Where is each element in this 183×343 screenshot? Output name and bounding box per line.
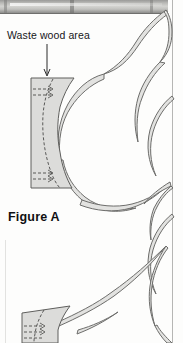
curved-band-middle-right xyxy=(148,96,174,176)
band-junction-lower xyxy=(149,246,168,326)
waste-wood-area-label: Waste wood area xyxy=(7,29,90,41)
figure-a-diagram xyxy=(0,0,183,343)
curved-band-bowl-lower xyxy=(60,160,136,211)
figure-caption: Figure A xyxy=(8,210,60,224)
curved-band-bottom-tail xyxy=(155,325,172,343)
curved-band-bottom xyxy=(77,312,118,334)
diagram-page: Waste wood area Figure A xyxy=(0,0,183,343)
waste-wood-leader-line xyxy=(44,44,50,76)
